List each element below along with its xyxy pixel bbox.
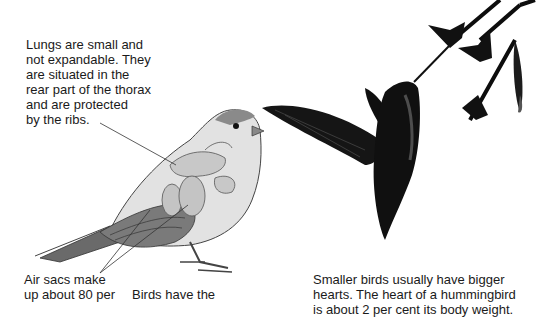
lungs-caption: Lungs are small and not expandable. They… xyxy=(26,37,186,127)
eye-icon xyxy=(233,123,239,129)
heart-caption: Smaller birds usually have bigger hearts… xyxy=(313,272,553,317)
birds-have-caption: Birds have the xyxy=(132,287,242,302)
hummingbird-illustration xyxy=(262,0,535,240)
sparrow-illustration xyxy=(35,110,264,273)
air-sacs-caption: Air sacs make up about 80 per xyxy=(24,272,134,302)
